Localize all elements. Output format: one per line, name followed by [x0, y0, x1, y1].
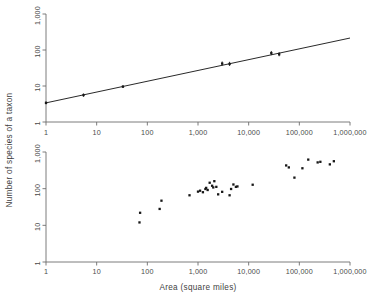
- y-tick-label-bottom-2: 100: [33, 184, 42, 196]
- data-point-bottom-30: [319, 161, 321, 163]
- data-point-bottom-23: [252, 184, 254, 186]
- data-point-bottom-28: [307, 158, 309, 160]
- x-tick-label-bottom-2: 100: [141, 267, 153, 276]
- data-point-bottom-18: [228, 194, 230, 196]
- x-tick-label-top-4: 10,000: [237, 128, 260, 137]
- data-point-bottom-6: [199, 190, 201, 192]
- x-tick-label-top-3: 1,000: [189, 128, 208, 137]
- data-point-bottom-26: [293, 176, 295, 178]
- data-point-bottom-3: [160, 200, 162, 202]
- y-tick-label-bottom-0: 1: [33, 261, 42, 265]
- data-point-top-2: [122, 85, 124, 87]
- y-tick-label-top-3: 1,000: [33, 6, 42, 25]
- x-tick-label-bottom-1: 10: [93, 267, 101, 276]
- x-tick-label-bottom-3: 1,000: [189, 267, 208, 276]
- x-tick-label-top-6: 1,000,000: [333, 128, 366, 137]
- data-point-bottom-13: [212, 186, 214, 188]
- data-point-bottom-9: [205, 187, 207, 189]
- data-point-bottom-2: [158, 208, 160, 210]
- data-point-bottom-17: [221, 191, 223, 193]
- data-point-bottom-25: [288, 166, 290, 168]
- regression-line: [46, 38, 350, 103]
- data-point-bottom-7: [202, 191, 204, 193]
- data-point-bottom-1: [139, 212, 141, 214]
- data-point-bottom-14: [213, 180, 215, 182]
- data-point-bottom-29: [317, 161, 319, 163]
- species-area-figure: 1101001,0001101001,00010,000100,0001,000…: [0, 0, 368, 298]
- x-tick-label-bottom-5: 100,000: [286, 267, 313, 276]
- x-tick-label-top-2: 100: [141, 128, 153, 137]
- data-point-bottom-11: [209, 182, 211, 184]
- y-tick-label-top-0: 1: [33, 121, 42, 125]
- data-point-bottom-22: [236, 185, 238, 187]
- data-point-top-4: [228, 63, 230, 65]
- y-tick-label-top-2: 100: [33, 45, 42, 57]
- x-tick-label-bottom-4: 10,000: [237, 267, 260, 276]
- x-tick-label-bottom-0: 1: [44, 267, 48, 276]
- x-tick-label-top-0: 1: [44, 128, 48, 137]
- y-tick-label-bottom-1: 10: [33, 223, 42, 231]
- x-tick-label-top-5: 100,000: [286, 128, 313, 137]
- data-point-top-0: [45, 102, 47, 104]
- y-tick-label-bottom-3: 1,000: [33, 144, 42, 163]
- data-point-top-6: [278, 53, 280, 55]
- y-tick-label-top-1: 10: [33, 83, 42, 91]
- data-point-bottom-20: [232, 183, 234, 185]
- x-axis-title: Area (square miles): [159, 283, 236, 292]
- data-point-top-5: [270, 52, 272, 54]
- data-point-bottom-4: [188, 194, 190, 196]
- data-point-bottom-27: [301, 167, 303, 169]
- data-point-bottom-32: [333, 160, 335, 162]
- data-point-bottom-10: [206, 189, 208, 191]
- data-point-bottom-31: [329, 163, 331, 165]
- data-point-bottom-24: [285, 164, 287, 166]
- data-point-top-3: [221, 62, 223, 64]
- data-point-bottom-19: [230, 188, 232, 190]
- data-point-bottom-16: [217, 193, 219, 195]
- x-tick-label-bottom-6: 1,000,000: [333, 267, 366, 276]
- figure-canvas: 1101001,0001101001,00010,000100,0001,000…: [0, 0, 368, 298]
- data-point-bottom-0: [138, 221, 140, 223]
- x-tick-label-top-1: 10: [93, 128, 101, 137]
- data-point-bottom-15: [215, 186, 217, 188]
- data-point-top-1: [82, 94, 84, 96]
- panel-top: 1101001,0001101001,00010,000100,0001,000…: [33, 6, 367, 137]
- data-point-bottom-5: [197, 190, 199, 192]
- y-axis-title: Number of species of a taxon: [5, 92, 14, 207]
- panel-bottom: 1101001,0001101001,00010,000100,0001,000…: [33, 144, 367, 276]
